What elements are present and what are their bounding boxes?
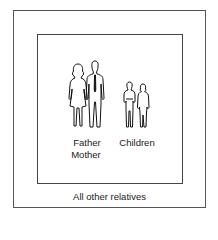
girl-figure-icon	[136, 83, 150, 129]
mother-label: Mother	[69, 149, 103, 160]
father-label: Father	[70, 137, 104, 148]
children-label: Children	[117, 137, 157, 148]
all-other-relatives-label: All other relatives	[13, 191, 206, 202]
inner-box-nuclear-family	[37, 34, 183, 184]
boy-figure-icon	[122, 81, 137, 129]
father-figure-icon	[85, 60, 105, 130]
